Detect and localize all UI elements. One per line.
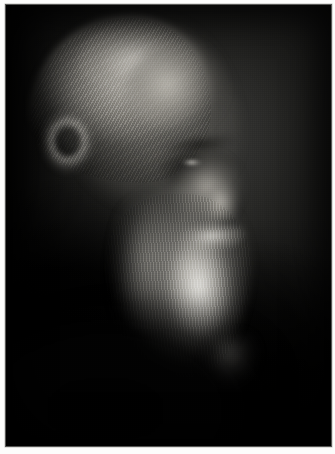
page-canvas: Black and white profile portrait of an e… <box>0 0 335 454</box>
subject-shoulders <box>5 296 285 447</box>
photo-plate <box>5 4 332 447</box>
photo-caption: Black and white profile portrait of an e… <box>0 0 1 1</box>
portrait-photograph: Black and white profile portrait of an e… <box>0 0 335 454</box>
